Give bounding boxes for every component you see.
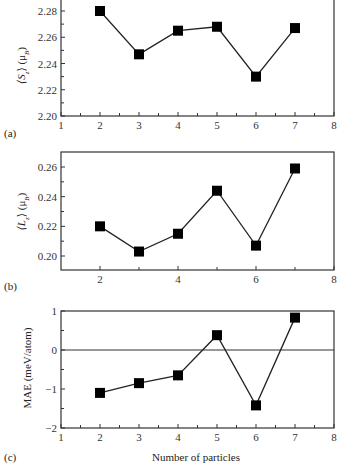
y-axis-title-a: ⟨Sz⟩ (μB) <box>15 31 30 101</box>
data-point-square <box>290 313 300 323</box>
x-tick-label: 5 <box>214 119 220 131</box>
x-tick-label: 8 <box>331 431 337 443</box>
x-tick-label: 4 <box>175 119 181 131</box>
panel-label-c: (c) <box>4 451 16 463</box>
panel-label-a: (a) <box>4 127 16 139</box>
y-tick-label: 0 <box>52 344 58 356</box>
data-point-square <box>173 229 183 239</box>
y-tick-label: −2 <box>45 422 57 434</box>
x-tick-label: 1 <box>58 119 64 131</box>
y-tick-label: 2.22 <box>38 84 57 96</box>
x-tick-label: 6 <box>253 273 259 285</box>
data-line <box>100 11 295 77</box>
x-tick-label: 6 <box>253 431 259 443</box>
y-tick-label: 2.24 <box>38 58 58 70</box>
data-point-square <box>290 163 300 173</box>
x-tick-label: 4 <box>175 273 181 285</box>
y-tick-label: 1 <box>52 305 58 317</box>
data-point-square <box>134 49 144 59</box>
figure: 2.202.222.242.262.28123456780.200.220.24… <box>0 0 347 476</box>
data-point-square <box>134 247 144 257</box>
plot-frame <box>61 0 334 116</box>
data-point-square <box>173 26 183 36</box>
x-tick-label: 3 <box>136 119 142 131</box>
data-line <box>100 318 295 406</box>
y-tick-label: 0.20 <box>38 250 58 262</box>
x-tick-label: 6 <box>253 119 259 131</box>
x-tick-label: 8 <box>331 119 337 131</box>
panel-label-b: (b) <box>4 280 17 292</box>
chart-panel-a: 2.202.222.242.262.2812345678 <box>38 0 338 131</box>
y-tick-label: 2.26 <box>38 31 58 43</box>
data-point-square <box>251 241 261 251</box>
y-tick-label: 2.20 <box>38 110 58 122</box>
y-tick-label: 0.24 <box>38 191 58 203</box>
x-tick-label: 7 <box>292 119 298 131</box>
data-point-square <box>95 6 105 16</box>
data-point-square <box>251 400 261 410</box>
y-tick-label: −1 <box>45 383 57 395</box>
y-tick-label: 2.28 <box>38 5 58 17</box>
chart-panel-b: 0.200.220.240.262468 <box>38 152 338 285</box>
y-tick-label: 0.22 <box>38 220 57 232</box>
x-tick-label: 2 <box>97 431 103 443</box>
data-point-square <box>95 388 105 398</box>
data-point-square <box>212 186 222 196</box>
data-point-square <box>134 378 144 388</box>
y-tick-label: 0.26 <box>38 161 58 173</box>
x-tick-label: 8 <box>331 273 337 285</box>
data-point-square <box>173 370 183 380</box>
data-point-square <box>251 72 261 82</box>
x-tick-label: 5 <box>214 431 220 443</box>
x-tick-label: 3 <box>136 431 142 443</box>
data-point-square <box>290 23 300 33</box>
data-point-square <box>212 330 222 340</box>
x-tick-label: 2 <box>97 273 103 285</box>
x-tick-label: 2 <box>97 119 103 131</box>
data-point-square <box>95 221 105 231</box>
x-tick-label: 7 <box>292 431 298 443</box>
plot-frame <box>61 311 334 428</box>
x-tick-label: 1 <box>58 431 64 443</box>
y-axis-title-b: ⟨Lz⟩ (μB) <box>15 177 30 247</box>
y-axis-title-c: MAE (meV/atom) <box>21 318 33 418</box>
x-axis-title-c: Number of particles <box>152 451 240 463</box>
data-point-square <box>212 22 222 32</box>
x-tick-label: 4 <box>175 431 181 443</box>
data-line <box>100 168 295 251</box>
chart-panel-c: −2−10112345678 <box>45 305 337 443</box>
